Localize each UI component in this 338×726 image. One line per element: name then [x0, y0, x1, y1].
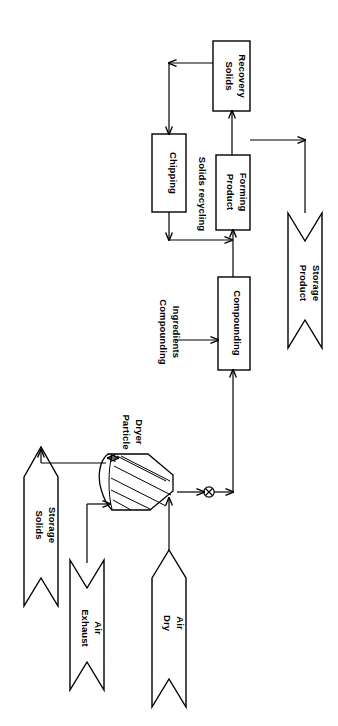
- stream-dry-air: Dry Air: [152, 550, 186, 707]
- exhaust-air-label-line1: Exhaust: [80, 609, 91, 647]
- dry-air-label-line1: Dry: [162, 615, 173, 632]
- unit-product-forming: Product Forming: [216, 155, 250, 230]
- compounding-ingredients-label-line2: Ingredients: [171, 306, 182, 358]
- flow-diagram-canvas: Solids Recovery Chipping Product Forming…: [0, 0, 338, 726]
- particle-dryer-label-line2: Dryer: [134, 419, 145, 445]
- particle-dryer-label-line1: Particle: [121, 414, 132, 449]
- stream-exhaust-air: Exhaust Air: [70, 560, 104, 690]
- product-forming-label-line2: Forming: [238, 173, 249, 212]
- solids-storage-label-line1: Solids: [34, 510, 45, 539]
- product-storage-label-line2: Storage: [311, 265, 322, 301]
- solids-storage-label-line2: Storage: [47, 507, 58, 543]
- product-forming-label-line1: Product: [225, 174, 236, 211]
- compounding-label-line1: Compounding: [232, 290, 243, 356]
- equipment-particle-dryer: Particle Dryer: [99, 414, 173, 510]
- chipping-label-line1: Chipping: [168, 152, 179, 194]
- unit-chipping: Chipping: [152, 134, 186, 212]
- solids-recovery-label-line2: Recovery: [237, 54, 248, 98]
- process-flow-diagram: Solids Recovery Chipping Product Forming…: [0, 0, 338, 726]
- unit-compounding: Compounding: [218, 277, 250, 370]
- stream-product-storage: Product Storage: [288, 213, 322, 348]
- exhaust-air-label-line2: Air: [93, 621, 104, 635]
- solids-recycling-label: Solids recycling: [197, 157, 208, 232]
- compounding-ingredients-label-line1: Compounding: [158, 299, 169, 365]
- unit-solids-recovery: Solids Recovery: [213, 41, 250, 111]
- valve-symbol: [204, 487, 214, 497]
- stream-solids-storage: Solids Storage: [24, 447, 58, 606]
- product-storage-label-line1: Product: [298, 265, 309, 302]
- solids-recovery-label-line1: Solids: [224, 61, 235, 90]
- dry-air-label-line2: Air: [175, 616, 186, 630]
